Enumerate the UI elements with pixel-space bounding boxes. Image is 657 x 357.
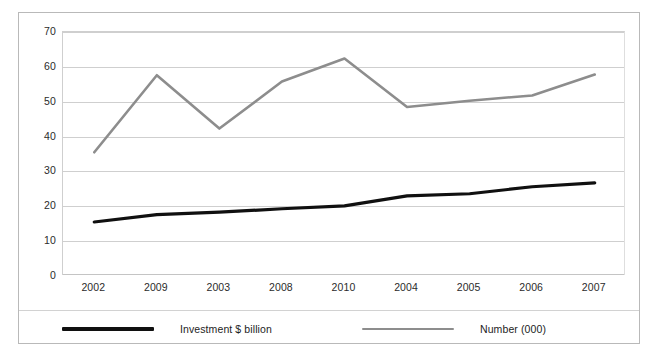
y-axis-tick-label: 60 bbox=[16, 60, 56, 72]
y-axis-tick-label: 70 bbox=[16, 25, 56, 37]
y-axis-tick-label: 10 bbox=[16, 234, 56, 246]
x-axis-tick-label: 2008 bbox=[269, 281, 293, 293]
chart-container: 706050403020100 200220092003200820102004… bbox=[0, 0, 657, 357]
y-axis-tick-label: 0 bbox=[16, 269, 56, 281]
legend-line-swatch bbox=[62, 327, 154, 330]
x-axis-tick-label: 2003 bbox=[206, 281, 230, 293]
series-line bbox=[94, 183, 594, 222]
x-axis-tick-label: 2007 bbox=[582, 281, 606, 293]
y-axis-tick-label: 40 bbox=[16, 130, 56, 142]
legend-entry[interactable]: Number (000) bbox=[362, 316, 546, 342]
legend-label: Investment $ billion bbox=[180, 323, 272, 335]
x-axis-labels: 200220092003200820102004200520062007 bbox=[62, 281, 625, 299]
x-axis-tick-label: 2010 bbox=[332, 281, 356, 293]
x-axis-tick-label: 2005 bbox=[457, 281, 481, 293]
series-layer bbox=[63, 32, 626, 276]
x-axis-tick-label: 2006 bbox=[519, 281, 543, 293]
series-line bbox=[94, 58, 594, 152]
legend-line-swatch bbox=[362, 328, 454, 331]
plot-area bbox=[62, 31, 625, 275]
y-axis-tick-label: 30 bbox=[16, 164, 56, 176]
x-axis-tick-label: 2002 bbox=[81, 281, 105, 293]
y-axis-tick-label: 50 bbox=[16, 95, 56, 107]
legend-entry[interactable]: Investment $ billion bbox=[62, 316, 272, 342]
x-axis-tick-label: 2009 bbox=[144, 281, 168, 293]
y-axis-tick-label: 20 bbox=[16, 199, 56, 211]
legend-label: Number (000) bbox=[480, 323, 546, 335]
x-axis-tick-label: 2004 bbox=[394, 281, 418, 293]
y-axis-labels: 706050403020100 bbox=[12, 31, 56, 275]
legend-separator bbox=[19, 310, 639, 311]
chart-legend: Investment $ billionNumber (000) bbox=[62, 316, 625, 342]
